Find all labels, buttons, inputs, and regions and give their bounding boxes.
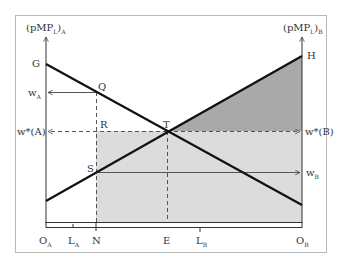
right-axis-title: (pMPL)B — [283, 22, 323, 35]
point-s-label: S — [87, 163, 94, 174]
point-t-label: T — [163, 119, 170, 130]
point-r-label: R — [100, 119, 108, 130]
wage-a-label: wA — [28, 87, 42, 100]
origin-a-label: OA — [39, 235, 52, 248]
wage-star-b-label: w*(B) — [305, 126, 334, 137]
light-shaded-area — [96, 131, 302, 222]
diagram-canvas: (pMPL)A (pMPL)B G H Q R T S wA w*(A) w*(… — [0, 0, 344, 263]
wage-star-a-label: w*(A) — [17, 126, 46, 137]
left-axis-title: (pMPL)A — [26, 22, 66, 35]
origin-b-label: OB — [296, 235, 309, 248]
lb-label: LB — [196, 235, 208, 248]
point-g-label: G — [32, 58, 40, 69]
wage-b-label: wB — [306, 167, 320, 180]
n-label: N — [92, 235, 101, 246]
la-label: LA — [68, 235, 80, 248]
e-label: E — [163, 235, 170, 246]
point-h-label: H — [307, 50, 316, 61]
point-q-label: Q — [98, 81, 106, 92]
